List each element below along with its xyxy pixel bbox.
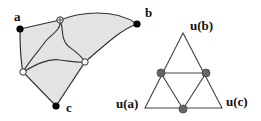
shaded-region [20,13,137,106]
vertex-a [16,25,23,32]
inner-triangle [161,73,206,109]
open-marker-right [82,59,88,65]
vertex-b [133,20,140,27]
label-uc: u(c) [226,94,248,109]
midpoint-right [202,69,210,77]
outer-triangle [145,33,222,108]
label-ua: u(a) [116,96,138,111]
open-marker-top [57,17,63,23]
label-b: b [145,5,152,20]
diagram-canvas: a b c u(b) u(a) u(c) [0,0,261,121]
label-ub: u(b) [190,18,213,33]
open-marker-left [20,69,26,75]
midpoint-bottom [179,105,187,113]
right-panel: u(b) u(a) u(c) [116,18,248,113]
label-a: a [14,9,21,24]
midpoint-left [157,69,165,77]
vertex-c [52,102,59,109]
label-c: c [66,100,72,115]
